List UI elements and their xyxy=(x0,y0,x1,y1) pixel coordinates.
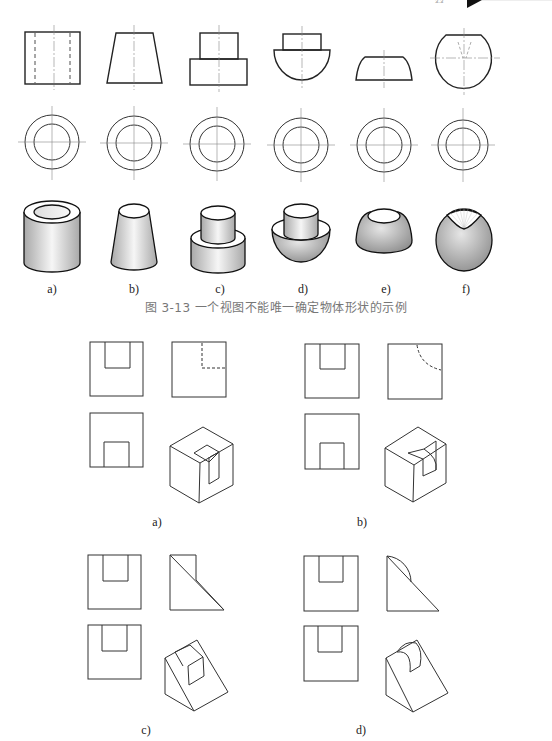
view-f-top xyxy=(431,108,495,182)
view-f-iso xyxy=(436,208,492,271)
view-e-front xyxy=(356,50,412,88)
figure-caption: 图 3-13 一个视图不能唯一确定物体形状的示例 xyxy=(0,298,552,315)
panel-a xyxy=(90,342,233,503)
panel-label-a: a) xyxy=(152,515,161,530)
label-b: b) xyxy=(129,282,139,297)
panel-label-c: c) xyxy=(141,723,150,738)
view-d-top xyxy=(267,108,335,182)
view-c-front xyxy=(190,25,247,92)
panel-c xyxy=(88,555,228,711)
panel-b xyxy=(305,344,446,502)
panel-label-b: b) xyxy=(357,515,367,530)
label-a: a) xyxy=(47,282,56,297)
iso-views xyxy=(24,201,492,273)
view-b-front xyxy=(107,25,162,90)
top-views xyxy=(18,106,495,182)
label-c: c) xyxy=(215,282,224,297)
view-d-front xyxy=(274,26,330,88)
view-d-iso xyxy=(272,204,330,262)
view-a-front xyxy=(25,25,80,90)
view-f-front xyxy=(430,28,500,95)
figure-3-13 xyxy=(0,0,552,300)
view-c-iso xyxy=(191,206,245,273)
view-e-top xyxy=(350,108,418,182)
view-a-iso xyxy=(24,201,80,272)
panel-d xyxy=(304,556,448,712)
view-b-top xyxy=(100,106,168,180)
view-b-iso xyxy=(111,204,157,270)
view-e-iso xyxy=(356,209,412,253)
label-e: e) xyxy=(381,282,390,297)
view-a-top xyxy=(18,106,86,180)
label-d: d) xyxy=(298,282,308,297)
label-f: f) xyxy=(462,282,470,297)
panel-label-d: d) xyxy=(356,723,366,738)
view-c-top xyxy=(183,107,251,181)
